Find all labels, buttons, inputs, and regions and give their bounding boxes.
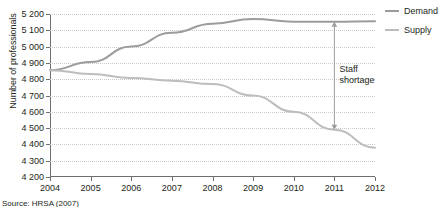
y-tick-label: 4 700: [21, 91, 44, 101]
x-tick-mark: [213, 177, 214, 181]
legend-label-supply: Supply: [404, 25, 432, 35]
y-tick-label: 4 300: [21, 156, 44, 166]
y-tick-label: 5 100: [21, 25, 44, 35]
y-tick-label: 5 200: [21, 9, 44, 19]
chart-figure: Number of professionals 4 2004 3004 4004…: [0, 0, 447, 207]
legend-item-supply: Supply: [385, 25, 438, 35]
y-tick-label: 4 600: [21, 107, 44, 117]
x-tick-label: 2007: [162, 183, 182, 193]
y-tick-label: 4 200: [21, 172, 44, 182]
source-note: Source: HRSA (2007): [2, 199, 79, 207]
x-tick-mark: [294, 177, 295, 181]
staff-shortage-annotation-label: Staffshortage: [339, 64, 374, 86]
x-tick-mark: [375, 177, 376, 181]
x-tick-label: 2008: [202, 183, 222, 193]
x-tick-label: 2010: [284, 183, 304, 193]
legend-item-demand: Demand: [385, 6, 438, 16]
x-tick-mark: [131, 177, 132, 181]
y-axis-label: Number of professionals: [8, 0, 18, 136]
legend-swatch-demand: [385, 10, 399, 12]
chart-legend: Demand Supply: [385, 6, 438, 35]
plot-area: 4 2004 3004 4004 5004 6004 7004 8004 900…: [50, 14, 375, 177]
y-tick-label: 4 500: [21, 123, 44, 133]
legend-label-demand: Demand: [404, 6, 438, 16]
series-line-supply: [50, 70, 375, 147]
x-tick-mark: [334, 177, 335, 181]
x-tick-label: 2006: [121, 183, 141, 193]
x-tick-mark: [91, 177, 92, 181]
x-tick-mark: [50, 177, 51, 181]
x-tick-label: 2012: [365, 183, 385, 193]
y-tick-label: 4 900: [21, 58, 44, 68]
x-tick-label: 2005: [81, 183, 101, 193]
series-lines: [50, 14, 375, 177]
legend-swatch-supply: [385, 29, 399, 31]
x-tick-label: 2011: [325, 183, 344, 193]
x-tick-mark: [253, 177, 254, 181]
series-line-demand: [50, 19, 375, 70]
y-tick-label: 4 400: [21, 139, 44, 149]
x-tick-mark: [172, 177, 173, 181]
y-tick-label: 4 800: [21, 74, 44, 84]
x-tick-label: 2004: [40, 183, 60, 193]
y-tick-label: 5 000: [21, 42, 44, 52]
x-tick-label: 2009: [243, 183, 263, 193]
